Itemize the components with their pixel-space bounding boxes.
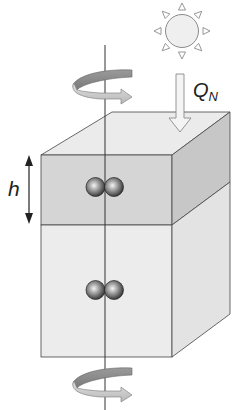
rotation-arrow-bottom-icon <box>73 368 132 402</box>
heat-flux-label: QN <box>193 80 218 103</box>
heat-flux-subscript: N <box>209 89 218 104</box>
diagram-canvas: h QN <box>0 0 242 410</box>
rotation-arrow-top-icon <box>73 70 132 104</box>
heat-flux-symbol: Q <box>193 79 209 101</box>
h-dimension-arrow-icon <box>25 155 33 224</box>
thickness-label-h: h <box>8 178 20 199</box>
sun-icon <box>154 3 210 59</box>
